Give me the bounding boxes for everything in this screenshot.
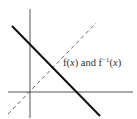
function-label: f(x) and f−1(x) <box>63 57 121 69</box>
label-inverse-exponent: −1 <box>102 56 109 64</box>
label-close-paren: ) <box>118 57 122 68</box>
function-line-solid <box>12 26 100 116</box>
label-f-prefix: f( <box>63 57 70 68</box>
label-mid: ) and f <box>75 57 102 68</box>
